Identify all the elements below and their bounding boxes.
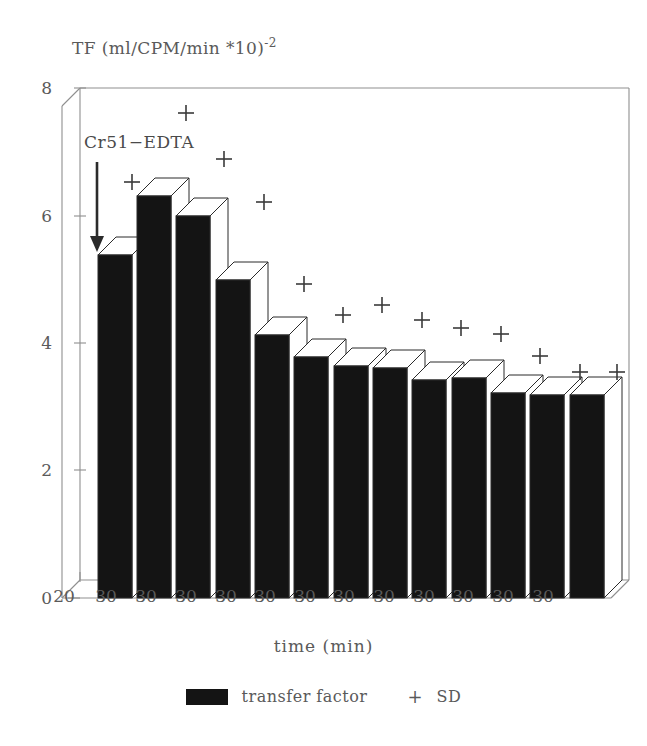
y-tick-label: 6 xyxy=(26,206,52,226)
y-tick-label: 2 xyxy=(26,460,52,480)
sd-marker xyxy=(414,312,430,328)
sd-marker xyxy=(374,297,390,313)
x-tick-label: 30 xyxy=(364,586,404,606)
chart-canvas xyxy=(0,0,647,746)
sd-marker xyxy=(296,276,312,292)
annotation-arrow xyxy=(90,162,104,252)
x-tick-label: 30 xyxy=(404,586,444,606)
sd-marker xyxy=(493,326,509,342)
legend-label-sd: SD xyxy=(437,687,462,706)
sd-marker xyxy=(256,194,272,210)
x-axis-title: time (min) xyxy=(0,636,647,656)
sd-marker xyxy=(453,320,469,336)
annotation-label: Cr51−EDTA xyxy=(84,132,194,152)
legend-label-transfer-factor: transfer factor xyxy=(242,687,368,706)
y-tick-marks xyxy=(68,88,86,598)
chart-root: TF (ml/CPM/min *10)-2 xyxy=(0,0,647,746)
x-tick-label: 30 xyxy=(324,586,364,606)
legend-plus-icon: + xyxy=(408,686,423,707)
sd-marker xyxy=(216,151,232,167)
x-tick-label: 30 xyxy=(443,586,483,606)
x-tick-label: 30 xyxy=(166,586,206,606)
sd-marker xyxy=(124,174,140,190)
x-tick-label: 30 xyxy=(126,586,166,606)
x-tick-label: 30 xyxy=(285,586,325,606)
x-tick-label: 30 xyxy=(86,586,126,606)
y-tick-label: 8 xyxy=(26,78,52,98)
sd-marker xyxy=(335,307,351,323)
chart-legend: transfer factor + SD xyxy=(0,686,647,707)
y-tick-label: 4 xyxy=(26,333,52,353)
legend-swatch-transfer-factor xyxy=(186,689,228,705)
sd-marker xyxy=(532,348,548,364)
x-tick-label: 30 xyxy=(483,586,523,606)
x-tick-label: 30 xyxy=(206,586,246,606)
x-tick-label: 20 xyxy=(44,586,84,606)
x-tick-label: 30 xyxy=(523,586,563,606)
sd-marker xyxy=(178,105,194,121)
plot-area: 8 6 4 2 0 20 30 30 30 30 30 30 30 30 30 … xyxy=(0,0,647,746)
bar-series xyxy=(98,178,622,598)
bar xyxy=(570,377,622,598)
x-tick-label: 30 xyxy=(245,586,285,606)
